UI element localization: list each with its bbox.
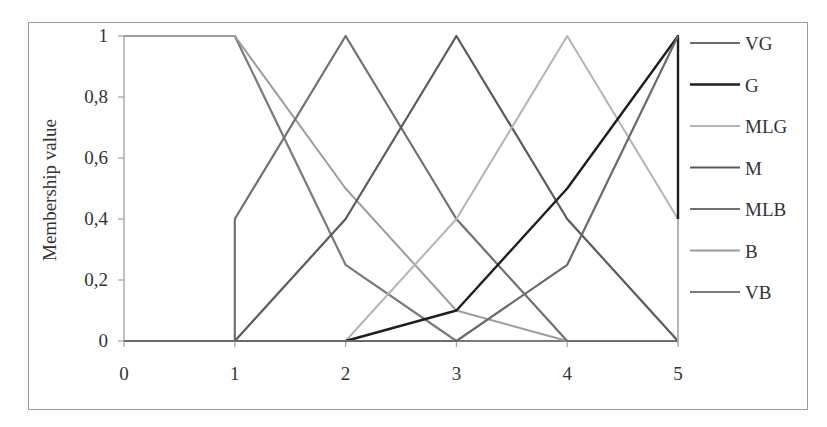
x-tick-label: 5 (673, 363, 683, 384)
series-mlb (235, 36, 678, 341)
y-tick-label: 1 (99, 25, 109, 46)
x-tick-label: 3 (452, 363, 462, 384)
legend-label-mlb: MLB (745, 199, 786, 220)
series-layer (124, 36, 678, 341)
series-g (346, 36, 678, 341)
legend-label-vb: VB (745, 282, 771, 303)
x-tick-label: 2 (341, 363, 351, 384)
legend-label-mlg: MLG (745, 116, 788, 137)
legend-label-vg: VG (745, 33, 773, 54)
legend-label-m: M (745, 158, 762, 179)
legend: VGGMLGMMLBBVB (690, 33, 788, 303)
membership-chart: 00,20,40,60,81012345 VGGMLGMMLBBVB Membe… (0, 0, 827, 427)
legend-label-b: B (745, 241, 758, 262)
series-mlg (124, 36, 678, 341)
x-tick-label: 0 (119, 363, 129, 384)
y-tick-label: 0,2 (84, 269, 108, 290)
y-tick-label: 0,8 (84, 86, 108, 107)
y-tick-label: 0,4 (84, 208, 108, 229)
x-tick-label: 1 (230, 363, 240, 384)
y-tick-label: 0 (99, 330, 109, 351)
legend-label-g: G (745, 75, 759, 96)
x-tick-label: 4 (562, 363, 572, 384)
y-tick-label: 0,6 (84, 147, 108, 168)
y-axis-title: Membership value (39, 119, 60, 261)
